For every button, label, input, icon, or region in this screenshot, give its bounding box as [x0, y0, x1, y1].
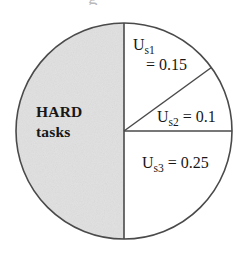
- slice-label-us1-symbol: U: [133, 36, 145, 53]
- slice-label-us2-subscript: s2: [169, 116, 179, 128]
- slice-label-us3: Us3 = 0.25: [142, 155, 209, 172]
- slice-label-us2: Us2 = 0.1: [157, 109, 216, 126]
- slice-label-hard-line2: tasks: [36, 124, 110, 140]
- slice-label-us1-subscript: s1: [145, 44, 155, 56]
- slice-label-us1-line1: Us1: [133, 36, 155, 53]
- slice-label-hard-tasks: HARD tasks: [36, 104, 110, 141]
- slice-label-us1-value: = 0.15: [146, 57, 187, 74]
- slice-label-hard-line1: HARD: [36, 103, 82, 120]
- slice-label-us2-value: = 0.1: [183, 108, 216, 125]
- slice-label-us1: Us1 = 0.15: [133, 37, 187, 74]
- pie-chart-figure: g HARD tasks: [0, 0, 250, 259]
- slice-label-us2-symbol: U: [157, 108, 169, 125]
- slice-label-us3-subscript: s3: [154, 162, 164, 174]
- slice-label-us3-symbol: U: [142, 154, 154, 171]
- slice-label-us3-value: = 0.25: [168, 154, 209, 171]
